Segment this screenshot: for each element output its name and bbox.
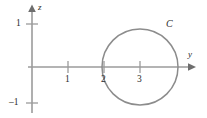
z-tick-label-positive-1: 1 xyxy=(16,19,21,29)
z-tick-label-negative-1: –1 xyxy=(9,98,19,108)
y-tick-label-2: 2 xyxy=(101,75,106,85)
y-tick-label-1: 1 xyxy=(65,75,70,85)
z-axis-label: z xyxy=(38,3,42,12)
y-tick-label-3: 3 xyxy=(137,75,142,85)
z-axis-arrowhead xyxy=(28,5,36,13)
figure-container: z y C 1 2 3 1 –1 xyxy=(0,0,207,118)
y-axis-arrowhead xyxy=(188,63,196,71)
y-axis-label: y xyxy=(188,50,192,59)
coordinate-diagram-svg xyxy=(0,0,207,118)
curve-label-c: C xyxy=(166,19,173,29)
